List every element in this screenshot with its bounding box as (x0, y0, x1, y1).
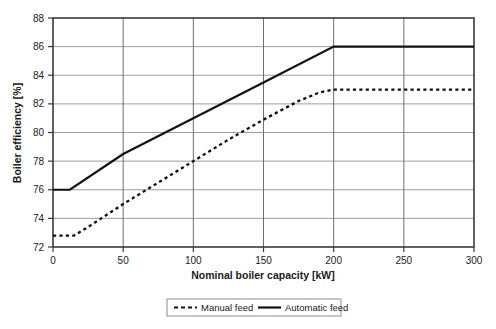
y-axis-title: Boiler efficiency [%] (11, 83, 23, 183)
x-axis-tick-labels: 050100150200250300 (50, 255, 483, 266)
y-tick-label: 80 (33, 127, 45, 138)
y-axis-tick-labels: 727476788082848688 (33, 13, 45, 253)
legend-label-manual-feed: Manual feed (201, 302, 253, 313)
x-tick-label: 0 (50, 255, 56, 266)
x-tick-label: 150 (255, 255, 272, 266)
x-axis-title: Nominal boiler capacity [kW] (191, 269, 335, 281)
x-tick-label: 250 (395, 255, 412, 266)
y-tick-label: 88 (33, 13, 45, 24)
x-tick-label: 300 (466, 255, 483, 266)
y-tick-label: 74 (33, 213, 45, 224)
legend-label-automatic-feed: Automatic feed (285, 302, 348, 313)
y-tick-label: 82 (33, 98, 45, 109)
y-tick-label: 78 (33, 156, 45, 167)
x-tick-label: 100 (185, 255, 202, 266)
chart-container: 050100150200250300 727476788082848688 No… (0, 0, 496, 329)
y-tick-label: 86 (33, 41, 45, 52)
chart-svg: 050100150200250300 727476788082848688 No… (0, 0, 496, 329)
x-tick-label: 50 (118, 255, 130, 266)
chart-legend: Manual feed Automatic feed (167, 299, 348, 316)
y-tick-label: 84 (33, 70, 45, 81)
y-tick-label: 76 (33, 184, 45, 195)
y-tick-label: 72 (33, 242, 45, 253)
x-tick-label: 200 (325, 255, 342, 266)
